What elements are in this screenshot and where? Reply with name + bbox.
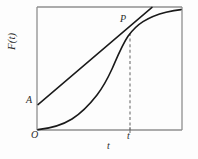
- s-curve: [38, 10, 181, 130]
- y-axis-label: F(t): [6, 33, 17, 50]
- plot-area: [0, 0, 198, 159]
- plot-frame: [37, 7, 182, 130]
- chord-line: [38, 7, 152, 104]
- point-label-p: P: [120, 14, 126, 24]
- x-axis-label: t: [107, 141, 110, 151]
- x-tick-label-t: t: [127, 131, 130, 141]
- intercept-label-a: A: [26, 95, 32, 105]
- origin-label: O: [31, 130, 38, 140]
- figure-container: F(t) t O A P t: [0, 0, 198, 159]
